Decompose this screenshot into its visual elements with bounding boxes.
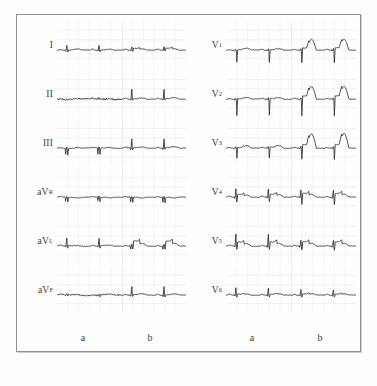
lead-block-V1: V1 — [192, 21, 356, 68]
ecg-svg-V3-b — [291, 119, 356, 166]
ecg-svg-V5-a — [226, 217, 291, 264]
lead-block-V5: V5 — [192, 217, 356, 264]
ecg-svg-V5-b — [291, 217, 356, 264]
lead-label-V6: V6 — [192, 266, 226, 313]
scan-top-text-remnant: · · · · · · — [18, 0, 268, 8]
trace-pair-V3 — [226, 119, 356, 166]
column-label-left-b: b — [130, 332, 170, 343]
ecg-trace-V5-a — [226, 217, 291, 264]
ecg-trace-V4-a — [226, 168, 291, 215]
ecg-trace-V5-b — [291, 217, 356, 264]
trace-pair-V2 — [226, 70, 356, 117]
lead-label-V5: V5 — [192, 217, 226, 264]
ecg-svg-V4-b — [291, 168, 356, 215]
lead-label-V4: V4 — [192, 168, 226, 215]
ecg-svg-V1-b — [291, 21, 356, 68]
ecg-svg-V6-a — [226, 266, 291, 313]
lead-block-V6: V6 — [192, 266, 356, 313]
ecg-trace-V6-a — [226, 266, 291, 313]
lead-block-V4: V4 — [192, 168, 356, 215]
ecg-svg-V4-a — [226, 168, 291, 215]
ecg-svg-V6-b — [291, 266, 356, 313]
column-label-left-a: a — [63, 332, 103, 343]
column-label-right-b: b — [300, 332, 340, 343]
ecg-trace-V6-b — [291, 266, 356, 313]
lead-label-V3: V3 — [192, 119, 226, 166]
ecg-svg-V1-a — [226, 21, 291, 68]
ecg-trace-V1-b — [291, 21, 356, 68]
lead-block-V2: V2 — [192, 70, 356, 117]
ecg-trace-V2-b — [291, 70, 356, 117]
trace-pair-V6 — [226, 266, 356, 313]
ecg-svg-V3-a — [226, 119, 291, 166]
ecg-trace-V1-a — [226, 21, 291, 68]
trace-pair-V5 — [226, 217, 356, 264]
lead-label-V2: V2 — [192, 70, 226, 117]
precordial-leads-panel: V1 V2 V3 — [17, 15, 360, 351]
ecg-trace-V2-a — [226, 70, 291, 117]
ecg-figure-root: · · · · · · I II III — [0, 0, 377, 386]
ecg-trace-V3-a — [226, 119, 291, 166]
trace-pair-V4 — [226, 168, 356, 215]
trace-pair-V1 — [226, 21, 356, 68]
lead-block-V3: V3 — [192, 119, 356, 166]
column-labels-row: a b a b — [17, 327, 360, 343]
ecg-figure-frame: I II III — [16, 14, 361, 352]
ecg-trace-V4-b — [291, 168, 356, 215]
ecg-svg-V2-b — [291, 70, 356, 117]
ecg-svg-V2-a — [226, 70, 291, 117]
lead-label-V1: V1 — [192, 21, 226, 68]
ecg-trace-V3-b — [291, 119, 356, 166]
column-label-right-a: a — [232, 332, 272, 343]
